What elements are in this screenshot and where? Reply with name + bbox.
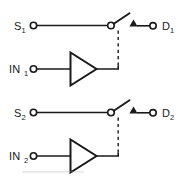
switch-blade-2[interactable] <box>114 100 130 111</box>
drain-terminal-1[interactable] <box>150 23 156 29</box>
drain-label-2-subscript: 2 <box>170 113 174 122</box>
buffer-output-wire-2 <box>97 154 119 157</box>
input-label-1: IN 1 <box>9 63 28 78</box>
schematic-diagram: S 1 D 1 IN 1 <box>0 0 184 176</box>
source-label-1-text: S <box>14 20 22 32</box>
drain-label-1-text: D <box>162 20 170 32</box>
input-label-2-text: IN <box>9 150 20 162</box>
switch-blade-1[interactable] <box>114 13 130 24</box>
input-label-2-subscript: 2 <box>24 156 28 165</box>
source-label-1: S 1 <box>14 20 26 35</box>
control-arrow-1 <box>129 20 137 27</box>
channel-2-group: S 2 D 2 IN 2 <box>9 100 174 172</box>
source-label-2: S 2 <box>14 107 26 122</box>
drain-label-2: D 2 <box>162 107 174 122</box>
source-label-2-subscript: 2 <box>22 113 26 122</box>
input-label-1-subscript: 1 <box>24 69 28 78</box>
drain-label-1-subscript: 1 <box>170 26 174 35</box>
drain-terminal-2[interactable] <box>150 110 156 116</box>
input-terminal-2[interactable] <box>30 153 36 159</box>
drain-label-2-text: D <box>162 107 170 119</box>
source-label-1-subscript: 1 <box>22 26 26 35</box>
input-terminal-1[interactable] <box>30 66 36 72</box>
channel-1-group: S 1 D 1 IN 1 <box>9 13 174 85</box>
buffer-amplifier-1 <box>71 53 97 86</box>
source-label-2-text: S <box>14 107 22 119</box>
drain-label-1: D 1 <box>162 20 174 35</box>
source-terminal-2[interactable] <box>30 109 36 115</box>
buffer-amplifier-2 <box>71 140 97 173</box>
schematic-canvas: S 1 D 1 IN 1 <box>0 0 184 176</box>
source-terminal-1[interactable] <box>30 22 36 28</box>
input-label-1-text: IN <box>9 63 20 75</box>
input-label-2: IN 2 <box>9 150 28 165</box>
buffer-output-wire-1 <box>97 67 119 70</box>
control-arrow-2 <box>129 107 137 114</box>
